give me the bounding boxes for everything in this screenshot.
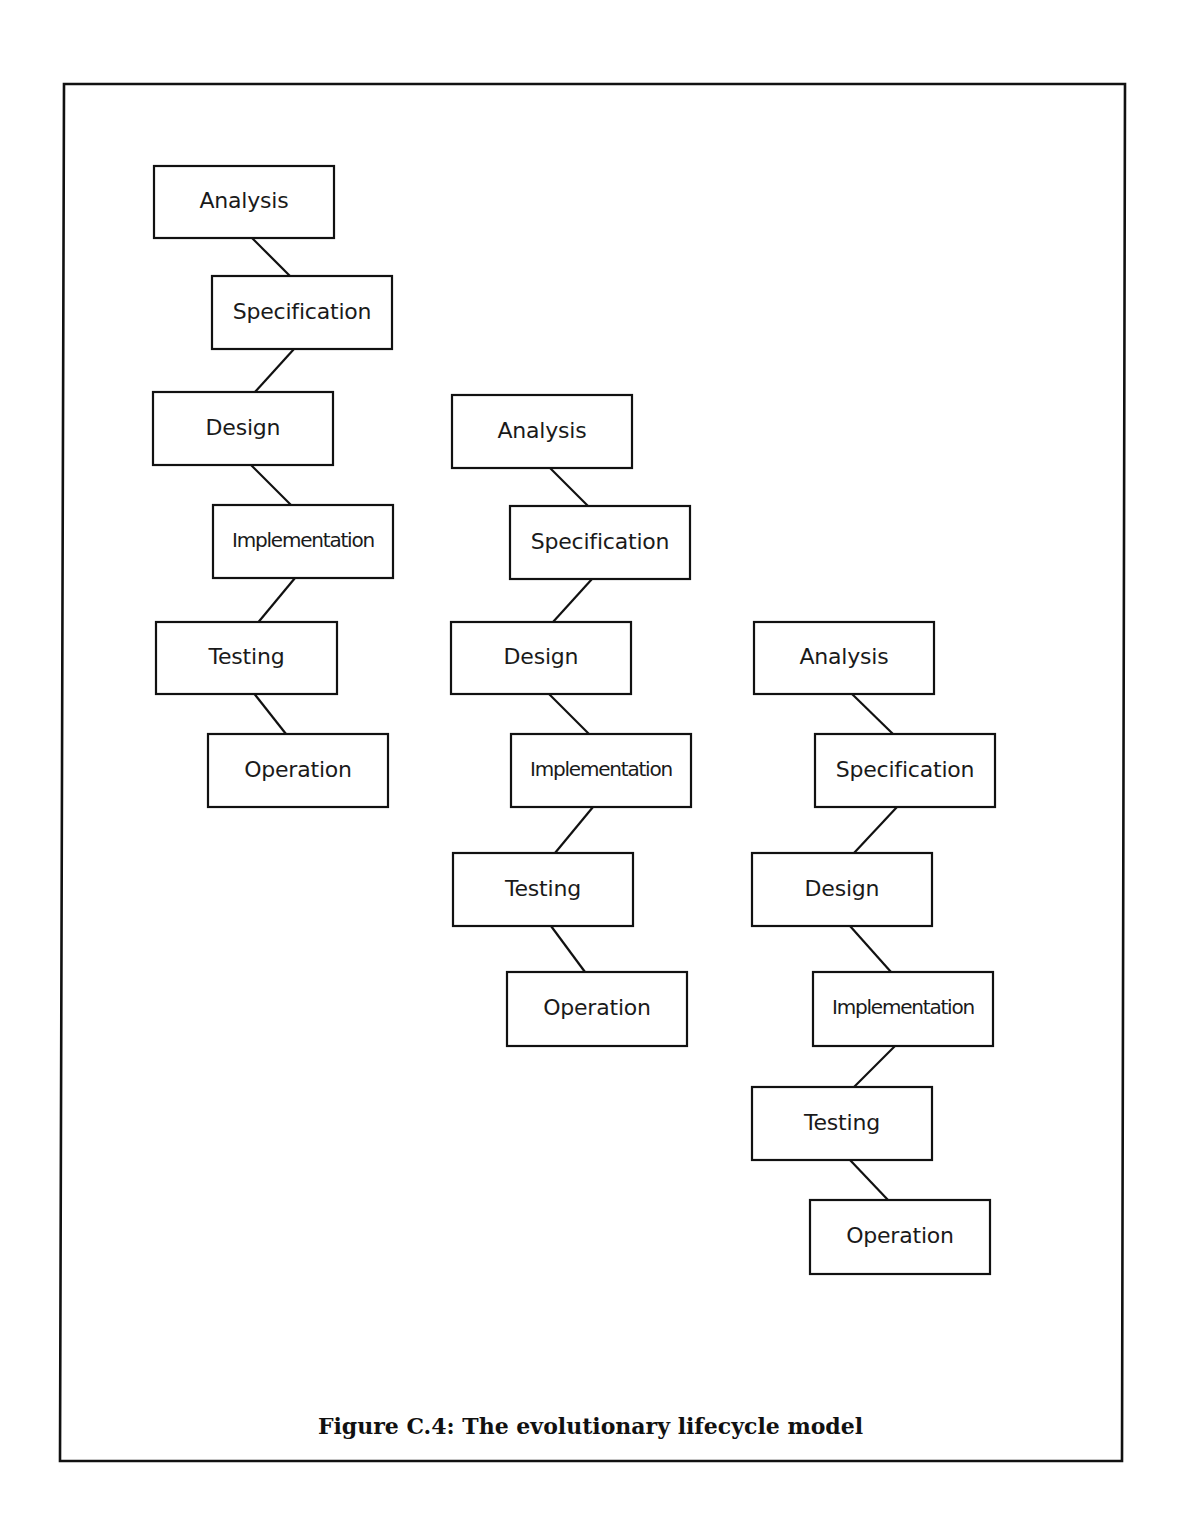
step-label-design: Design xyxy=(752,878,932,900)
connector-line xyxy=(551,926,585,972)
step-label-specification: Specification xyxy=(815,759,995,781)
connector-line xyxy=(259,578,296,622)
step-label-testing: Testing xyxy=(453,878,633,900)
step-label-operation: Operation xyxy=(507,997,687,1019)
connector-line xyxy=(854,807,897,853)
connector-line xyxy=(553,579,592,622)
step-label-specification: Specification xyxy=(510,531,690,553)
connector-line xyxy=(255,349,294,392)
step-label-testing: Testing xyxy=(752,1112,932,1134)
step-label-implementation: Implementation xyxy=(813,997,993,1017)
connector-line xyxy=(550,468,588,506)
step-label-operation: Operation xyxy=(810,1225,990,1247)
connector-line xyxy=(854,1046,895,1087)
connector-line xyxy=(255,694,287,734)
step-label-analysis: Analysis xyxy=(452,420,632,442)
step-label-operation: Operation xyxy=(208,759,388,781)
step-label-analysis: Analysis xyxy=(154,190,334,212)
step-label-design: Design xyxy=(451,646,631,668)
step-label-analysis: Analysis xyxy=(754,646,934,668)
step-label-testing: Testing xyxy=(156,646,337,668)
connector-line xyxy=(252,238,290,276)
connector-line xyxy=(850,1160,888,1200)
step-label-specification: Specification xyxy=(212,301,392,323)
connector-line xyxy=(850,926,891,972)
step-label-design: Design xyxy=(153,417,333,439)
step-label-implementation: Implementation xyxy=(213,530,393,550)
figure-caption: Figure C.4: The evolutionary lifecycle m… xyxy=(0,1413,1181,1439)
connector-line xyxy=(251,465,291,505)
step-label-implementation: Implementation xyxy=(511,759,691,779)
connector-line xyxy=(555,807,593,853)
connector-lines xyxy=(251,238,897,1200)
connector-line xyxy=(549,694,589,734)
connector-line xyxy=(852,694,893,734)
